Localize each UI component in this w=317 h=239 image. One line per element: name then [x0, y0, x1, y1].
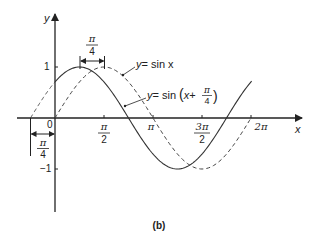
x-tick-pi: π [147, 121, 155, 132]
label-sin-shift: y= sin(x+ [146, 86, 196, 102]
left-frac-num: π [39, 137, 47, 148]
top-frac-num: π [88, 33, 96, 44]
curve-sin-shifted-negative-part [31, 82, 56, 118]
sin-x-leader-dot [122, 74, 124, 76]
y-axis-label: y [43, 12, 51, 24]
top-frac-den: 4 [89, 46, 95, 57]
x-tick-2pi: 2π [254, 121, 268, 132]
sin-shift-leader-dot [124, 105, 126, 107]
x-tick-pi-over-2-num: π [100, 121, 108, 132]
y-tick-1: 1 [44, 61, 50, 72]
sin-x-leader [123, 67, 135, 75]
x-tick-3pi-over-2-den: 2 [199, 134, 205, 145]
x-tick-pi-over-2-den: 2 [101, 134, 107, 145]
left-frac-den: 4 [40, 149, 46, 160]
x-axis-label: x [294, 123, 301, 135]
x-tick-3pi-over-2-num: 3π [196, 121, 209, 132]
origin-label: 0 [47, 119, 53, 130]
label-sin-x: y= sin x [135, 58, 174, 70]
label-shift-frac-den: 4 [204, 96, 209, 106]
label-shift-frac-num: π [203, 85, 211, 95]
sine-phase-shift-diagram: π 4 π 4 y x 0 1 −1 π 2 π 3π 2 2π y= sin … [0, 0, 317, 239]
figure-caption: (b) [153, 220, 166, 231]
y-tick-minus-1: −1 [40, 163, 52, 174]
label-shift-close-paren: ) [213, 88, 218, 104]
